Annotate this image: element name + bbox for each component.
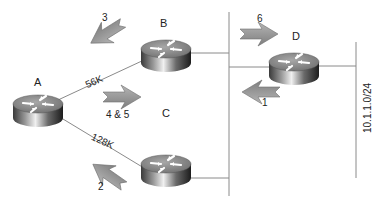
step-1-label: 1 [262, 98, 268, 108]
router-d-label: D [292, 31, 300, 42]
router-c-label: C [162, 108, 170, 119]
step-2-label: 2 [98, 182, 104, 192]
router-a-icon [13, 95, 63, 127]
router-b-icon [141, 40, 191, 72]
diagram-canvas [0, 0, 379, 205]
arrow-step-6-icon [240, 22, 278, 46]
arrow-step-4-5-icon [103, 85, 141, 109]
network-diagram: A B C D 56K 128K 3 4 & 5 2 6 1 10.1.1.0/… [0, 0, 379, 205]
step-4-5-label: 4 & 5 [106, 110, 129, 120]
router-a-label: A [34, 77, 41, 88]
step-6-label: 6 [257, 14, 263, 24]
router-b-label: B [160, 18, 167, 29]
arrow-step-1-icon [242, 80, 280, 104]
router-c-icon [141, 155, 191, 187]
arrow-step-2-icon [86, 154, 131, 195]
router-d-icon [269, 53, 319, 85]
subnet-label: 10.1.1.0/24 [363, 83, 373, 133]
step-3-label: 3 [102, 13, 108, 23]
